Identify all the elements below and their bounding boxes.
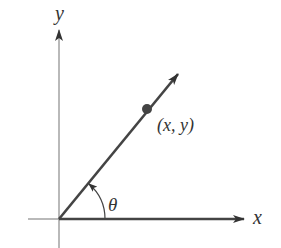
point-label: (x, y): [157, 115, 194, 136]
terminal-ray: [59, 74, 178, 219]
angle-arc: [89, 184, 105, 219]
y-axis-label: y: [53, 2, 64, 25]
angle-theta-label: θ: [108, 194, 117, 215]
polar-angle-diagram: y x (x, y) θ: [0, 0, 281, 248]
point-xy-dot: [142, 104, 152, 114]
x-axis-label: x: [252, 206, 262, 228]
